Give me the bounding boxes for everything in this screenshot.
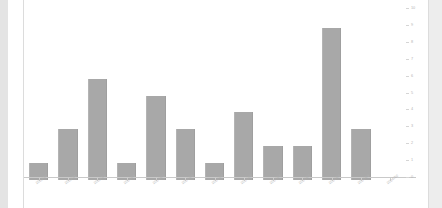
page-left-edge-strip <box>0 0 8 208</box>
y-axis-label: 3 <box>411 124 413 128</box>
y-tick-mark <box>406 42 409 43</box>
y-axis-label: 7 <box>411 57 413 61</box>
y-tick-mark <box>406 143 409 144</box>
y-tick-mark <box>406 126 409 127</box>
chart-screenshot: 2023/102023/112023/122024/012024/022024/… <box>0 0 442 208</box>
bar[interactable] <box>146 96 165 181</box>
bar[interactable] <box>234 112 253 180</box>
y-tick-mark <box>406 8 409 9</box>
bar[interactable] <box>176 129 195 180</box>
page-right-edge-strip <box>429 0 442 208</box>
y-axis-label: 6 <box>411 74 413 78</box>
y-tick-mark <box>406 109 409 110</box>
y-tick-mark <box>406 160 409 161</box>
y-axis-label: 8 <box>411 40 413 44</box>
bar[interactable] <box>322 28 341 180</box>
y-tick-mark <box>406 76 409 77</box>
y-axis-label: 4 <box>411 107 413 111</box>
y-tick-mark <box>406 25 409 26</box>
bar-series <box>24 8 405 180</box>
y-axis-label: 5 <box>411 91 413 95</box>
bar[interactable] <box>88 79 107 180</box>
page-right-rule <box>428 0 429 208</box>
y-tick-mark <box>406 177 409 178</box>
bar[interactable] <box>58 129 77 180</box>
y-tick-mark <box>406 93 409 94</box>
y-axis-label: 2 <box>411 141 413 145</box>
y-axis-label: 9 <box>411 23 413 27</box>
y-axis-label: 0 <box>411 175 413 179</box>
y-axis-label: 10 <box>411 6 415 10</box>
y-tick-mark <box>406 59 409 60</box>
y-axis-label: 1 <box>411 158 413 162</box>
plot-area <box>24 8 405 180</box>
bar[interactable] <box>351 129 370 180</box>
